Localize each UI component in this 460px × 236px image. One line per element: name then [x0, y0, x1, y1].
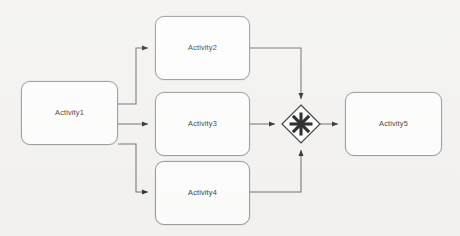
task-activity5[interactable]: Activity5 [345, 92, 442, 156]
complex-gateway[interactable] [282, 105, 320, 143]
task-activity2[interactable]: Activity2 [155, 16, 250, 80]
diagram-canvas: Activity1 Activity2 Activity3 Activity4 … [0, 0, 460, 236]
edge-activity1-to-activity2 [118, 48, 148, 104]
edge-activity1-to-activity4 [118, 144, 148, 192]
edge-activity2-to-gateway [250, 48, 301, 99]
task-activity3[interactable]: Activity3 [155, 92, 250, 156]
task-activity1[interactable]: Activity1 [21, 81, 118, 145]
task-activity3-label: Activity3 [188, 120, 217, 127]
task-activity1-label: Activity1 [55, 109, 84, 116]
task-activity5-label: Activity5 [379, 120, 408, 127]
edge-activity4-to-gateway [250, 150, 301, 192]
task-activity2-label: Activity2 [188, 44, 217, 51]
task-activity4[interactable]: Activity4 [155, 161, 250, 225]
asterisk-icon [288, 111, 314, 137]
task-activity4-label: Activity4 [188, 189, 217, 196]
